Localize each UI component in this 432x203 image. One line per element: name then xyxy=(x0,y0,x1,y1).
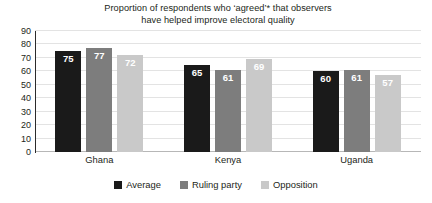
legend-label: Opposition xyxy=(273,180,318,190)
bar-value-label: 57 xyxy=(375,77,401,88)
y-axis-line xyxy=(35,31,36,153)
chart-title-line-1: Proportion of respondents who ‘agreed’* … xyxy=(46,3,390,15)
bar-value-label: 72 xyxy=(117,57,143,68)
legend-swatch-icon xyxy=(180,181,188,189)
bars-layer: 757772656169606157 xyxy=(35,31,421,152)
y-tick-label-20: 20 xyxy=(0,121,31,130)
y-tick-label-0: 0 xyxy=(0,148,31,157)
bar-ghana-opposition: 72 xyxy=(117,55,143,152)
y-tick-label-40: 40 xyxy=(0,94,31,103)
y-tick-label-60: 60 xyxy=(0,67,31,76)
x-axis-label-ghana: Ghana xyxy=(35,154,164,166)
bar-value-label: 60 xyxy=(313,73,339,84)
y-tick-label-30: 30 xyxy=(0,107,31,116)
x-axis-category-labels: GhanaKenyaUganda xyxy=(35,154,421,168)
y-tick-label-80: 80 xyxy=(0,40,31,49)
bar-value-label: 75 xyxy=(55,53,81,64)
bar-value-label: 61 xyxy=(344,72,370,83)
bar-chart: Proportion of respondents who ‘agreed’* … xyxy=(0,0,432,203)
chart-legend: AverageRuling partyOpposition xyxy=(0,180,432,190)
y-tick-label-70: 70 xyxy=(0,53,31,62)
plot-area: 757772656169606157 xyxy=(35,31,421,152)
bar-ghana-average: 75 xyxy=(55,51,81,152)
bar-value-label: 65 xyxy=(184,67,210,78)
bar-uganda-average: 60 xyxy=(313,71,339,152)
bar-kenya-ruling-party: 61 xyxy=(215,70,241,152)
bar-value-label: 77 xyxy=(86,50,112,61)
y-axis-tick-labels: 9080706050403020100 xyxy=(0,31,31,152)
bar-value-label: 69 xyxy=(246,61,272,72)
legend-label: Ruling party xyxy=(192,180,242,190)
x-axis-label-uganda: Uganda xyxy=(292,154,421,166)
y-tick-label-90: 90 xyxy=(0,27,31,36)
bar-uganda-ruling-party: 61 xyxy=(344,70,370,152)
legend-item-average[interactable]: Average xyxy=(114,180,161,190)
y-tick-label-10: 10 xyxy=(0,134,31,143)
legend-swatch-icon xyxy=(261,181,269,189)
bar-kenya-average: 65 xyxy=(184,65,210,152)
y-tick-label-50: 50 xyxy=(0,80,31,89)
chart-title: Proportion of respondents who ‘agreed’* … xyxy=(46,3,390,26)
legend-swatch-icon xyxy=(114,181,122,189)
bar-uganda-opposition: 57 xyxy=(375,75,401,152)
x-axis-label-kenya: Kenya xyxy=(164,154,293,166)
legend-item-ruling-party[interactable]: Ruling party xyxy=(180,180,242,190)
bar-kenya-opposition: 69 xyxy=(246,59,272,152)
legend-label: Average xyxy=(126,180,161,190)
chart-title-line-2: have helped improve electoral quality xyxy=(46,15,390,27)
bar-value-label: 61 xyxy=(215,72,241,83)
legend-item-opposition[interactable]: Opposition xyxy=(261,180,318,190)
bar-ghana-ruling-party: 77 xyxy=(86,48,112,152)
